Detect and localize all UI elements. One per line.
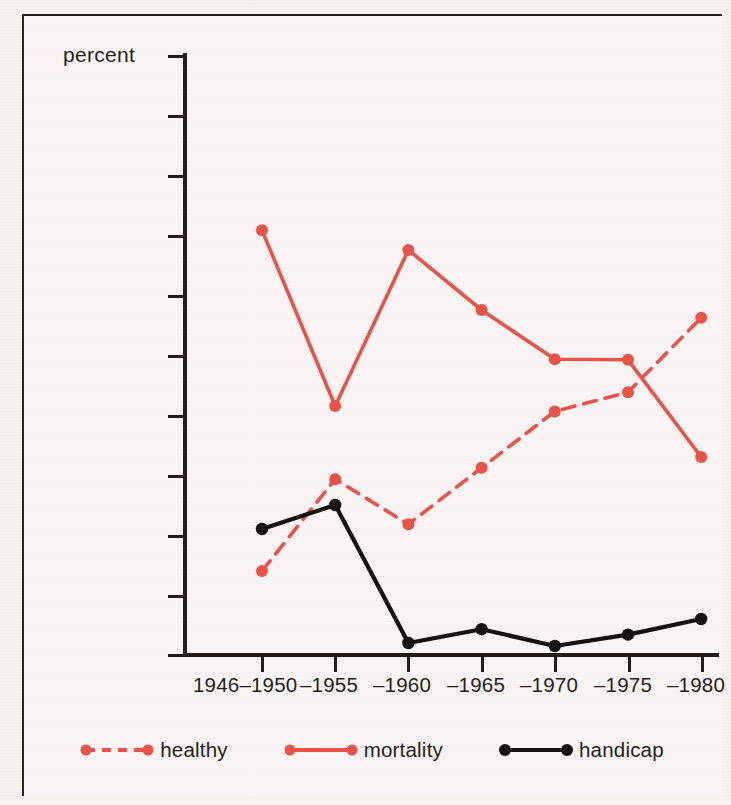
x-tick-label-6: –1980 [667,675,725,696]
x-tick-label-4: –1970 [520,675,578,696]
x-tick-label-3: –1965 [447,675,505,696]
y-tick-100 [168,55,183,58]
legend-swatch-mortality-icon [284,743,358,757]
chart-figure: percent 100 90 80 70 60 50 40 30 20 10 0… [0,0,731,805]
legend-swatch-healthy-icon [80,743,154,757]
legend-label-healthy: healthy [160,740,228,761]
x-tick-6 [701,657,704,672]
x-tick-4 [554,657,557,672]
y-tick-80 [168,175,183,178]
y-tick-90 [168,115,183,118]
x-tick-label-1: –1955 [300,675,358,696]
legend-item-healthy[interactable]: healthy [80,740,228,761]
y-axis-title: percent [63,44,135,65]
legend-item-mortality[interactable]: mortality [284,740,443,761]
x-tick-2 [407,657,410,672]
y-tick-30 [168,475,183,478]
x-tick-label-0: 1946–1950 [193,675,297,696]
x-tick-1 [334,657,337,672]
y-tick-20 [168,535,183,538]
y-tick-0 [168,654,183,657]
legend-swatch-handicap-icon [499,743,573,757]
y-tick-70 [168,235,183,238]
legend-label-mortality: mortality [364,740,443,761]
x-tick-label-2: –1960 [373,675,431,696]
x-tick-3 [481,657,484,672]
y-tick-10 [168,595,183,598]
x-tick-label-5: –1975 [594,675,652,696]
chart-legend: healthy mortality handicap [22,740,722,761]
x-tick-5 [628,657,631,672]
y-tick-40 [168,415,183,418]
y-tick-50 [168,355,183,358]
legend-label-handicap: handicap [579,740,664,761]
legend-item-handicap[interactable]: handicap [499,740,664,761]
x-tick-0 [261,657,264,672]
y-axis-line [183,53,187,657]
y-tick-60 [168,295,183,298]
